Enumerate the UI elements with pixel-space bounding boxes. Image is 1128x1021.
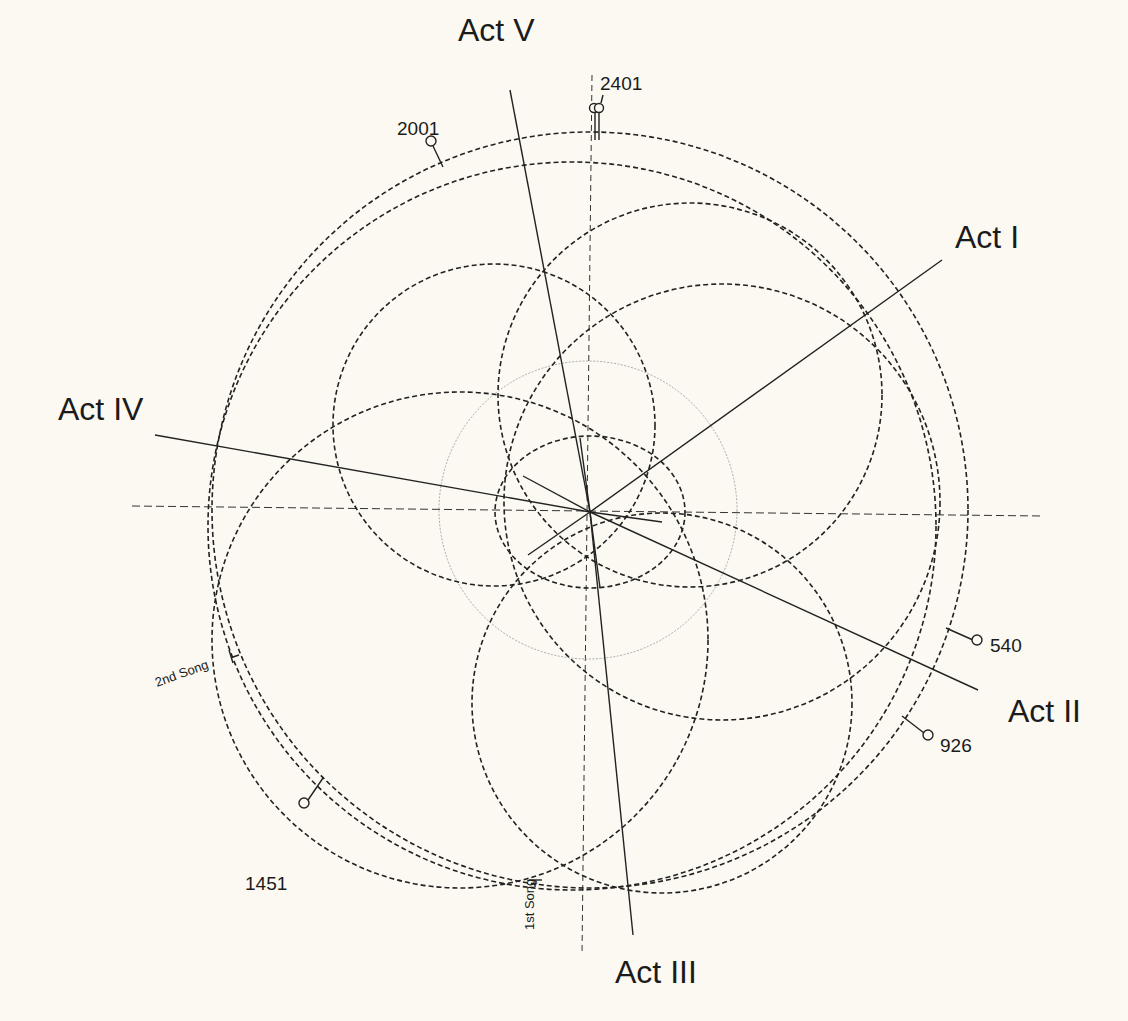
song-cycle-diagram: Act I Act II Act III Act IV Act V 2401 2… bbox=[0, 0, 1128, 1021]
marker-dot-icon bbox=[972, 635, 982, 645]
inner-spoke-lower-left bbox=[528, 512, 590, 555]
act-i-label: Act I bbox=[955, 219, 1019, 255]
act-v-label: Act V bbox=[458, 12, 535, 48]
inner-spoke-down bbox=[590, 512, 600, 588]
measure-2001-label: 2001 bbox=[397, 118, 439, 139]
first-song-label: 1st Song bbox=[522, 879, 537, 930]
act-ii-line bbox=[590, 512, 978, 690]
measure-2401-label: 2401 bbox=[600, 73, 642, 94]
marker-1451 bbox=[299, 778, 323, 808]
marker-540 bbox=[946, 628, 982, 645]
marker-dot-icon bbox=[299, 798, 309, 808]
act-circle-upper-right bbox=[498, 203, 882, 587]
act-iv-label: Act IV bbox=[58, 391, 144, 427]
measure-926-label: 926 bbox=[940, 735, 972, 756]
act-circle-upper-left bbox=[333, 264, 655, 586]
marker-2001 bbox=[426, 136, 443, 167]
measure-markers bbox=[229, 95, 982, 887]
act-iii-label: Act III bbox=[615, 954, 697, 990]
act-circle-right bbox=[504, 284, 940, 720]
second-song-label: 2nd Song bbox=[153, 657, 210, 690]
act-circle-lower-left bbox=[212, 392, 708, 888]
marker-926 bbox=[902, 716, 933, 740]
marker-dot-icon bbox=[595, 104, 604, 113]
song-labels: 2nd Song 1st Song bbox=[153, 657, 537, 930]
measure-540-label: 540 bbox=[990, 635, 1022, 656]
act-iii-line bbox=[590, 512, 633, 935]
measure-1451-label: 1451 bbox=[245, 873, 287, 894]
act-i-line bbox=[590, 260, 942, 512]
measure-labels: 2401 2001 540 926 1451 bbox=[245, 73, 1022, 894]
marker-dot-icon bbox=[923, 730, 933, 740]
act-circle-lower-right bbox=[472, 513, 852, 893]
diagram-canvas: Act I Act II Act III Act IV Act V 2401 2… bbox=[0, 0, 1128, 1021]
act-ii-label: Act II bbox=[1008, 693, 1081, 729]
act-iv-line bbox=[155, 435, 590, 512]
inner-spoke-up bbox=[580, 438, 590, 512]
outer-circle-b bbox=[208, 162, 936, 890]
reference-axes bbox=[132, 75, 1042, 955]
